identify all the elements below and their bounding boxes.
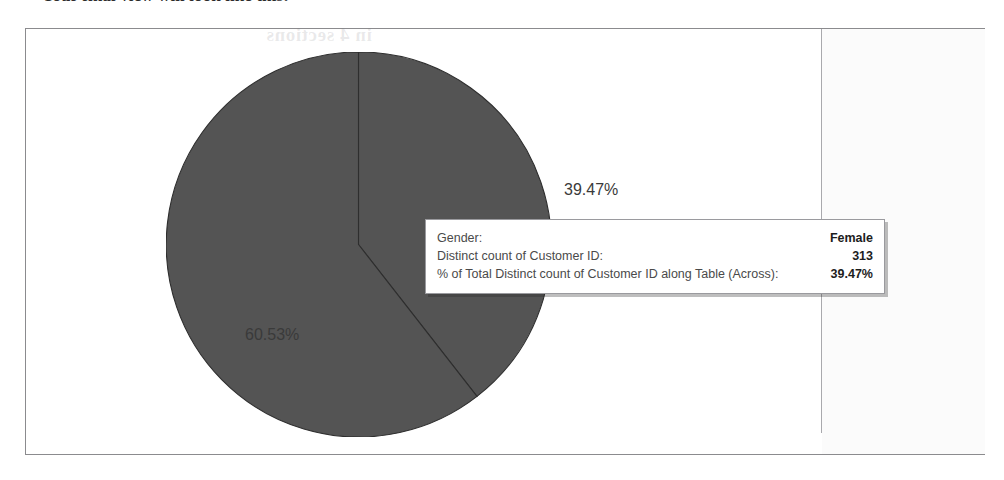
tooltip-key-gender: Gender: [437,229,488,247]
pie-label-male: 60.53% [245,326,299,344]
tooltip-row: % of Total Distinct count of Customer ID… [437,265,873,283]
tooltip-row: Distinct count of Customer ID: 313 [437,247,873,265]
tooltip-value-distinct-count: 313 [852,247,873,265]
tooltip-key-percent-of-total: % of Total Distinct count of Customer ID… [437,265,784,283]
pie-label-female: 39.47% [564,181,618,199]
scan-bleed-artifact: in 4 sections [266,24,372,46]
tooltip-key-distinct-count: Distinct count of Customer ID: [437,247,609,265]
tooltip-row: Gender: Female [437,229,873,247]
tooltip-value-percent-of-total: 39.47% [831,265,873,283]
visualization-frame: in 4 sections 39.47% 60.53% Gender: Fema… [25,28,985,455]
pie-slice-tooltip: Gender: Female Distinct count of Custome… [425,219,885,294]
tooltip-value-gender: Female [830,229,873,247]
page-heading: Your final view will look like this: [42,0,642,6]
